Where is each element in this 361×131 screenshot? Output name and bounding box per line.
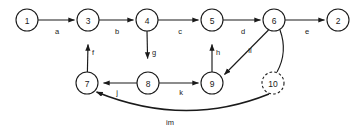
node-3-circle[interactable] (77, 9, 99, 31)
edge-label-b: b (115, 27, 119, 36)
graph-canvas: a b c d e f g h j k il im 1 3 4 (0, 0, 361, 131)
edge-label-d: d (241, 27, 245, 36)
edge-label-j: j (115, 88, 118, 97)
node-4[interactable]: 4 (136, 9, 158, 31)
node-4-circle[interactable] (136, 9, 158, 31)
edge-label-a: a (55, 27, 60, 36)
node-1-circle[interactable] (16, 9, 38, 31)
node-7-circle[interactable] (76, 72, 98, 94)
node-8[interactable]: 8 (137, 72, 159, 94)
node-2-circle[interactable] (327, 9, 349, 31)
node-1[interactable]: 1 (16, 9, 38, 31)
node-10-circle[interactable] (262, 72, 284, 94)
node-5-circle[interactable] (201, 9, 223, 31)
node-9-circle[interactable] (201, 72, 223, 94)
edge-4-to-8 (147, 31, 148, 59)
node-2[interactable]: 2 (327, 9, 349, 31)
node-9[interactable]: 9 (201, 72, 223, 94)
node-6[interactable]: 6 (263, 9, 285, 31)
edges-layer (38, 20, 325, 111)
edge-6-to-9 (225, 30, 269, 75)
node-7[interactable]: 7 (76, 72, 98, 94)
node-8-circle[interactable] (137, 72, 159, 94)
node-10[interactable]: 10 (262, 72, 284, 94)
edge-7-to-3 (87, 45, 88, 73)
edge-label-k: k (179, 88, 183, 97)
directed-graph-diagram: a b c d e f g h j k il im 1 3 4 (0, 0, 361, 131)
node-3[interactable]: 3 (77, 9, 99, 31)
node-6-circle[interactable] (263, 9, 285, 31)
nodes-layer: 1 3 4 5 6 2 7 (16, 9, 349, 94)
edge-6-to-10 (277, 30, 283, 72)
edge-label-im: im (166, 118, 174, 127)
edge-label-f: f (92, 48, 95, 57)
edge-label-e: e (305, 27, 309, 36)
edge-10-to-7 (97, 92, 270, 111)
node-5[interactable]: 5 (201, 9, 223, 31)
edge-label-h: h (216, 48, 220, 57)
edge-label-c: c (178, 27, 182, 36)
edge-label-g: g (152, 48, 156, 57)
